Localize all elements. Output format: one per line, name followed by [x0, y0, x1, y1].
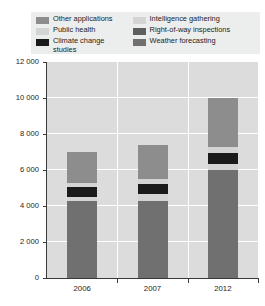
y-axis-tick-mark	[43, 242, 47, 243]
legend-item[interactable]: Right-of-way inspections	[133, 26, 256, 35]
x-axis-tick-mark	[188, 279, 189, 283]
legend-swatch-icon	[133, 28, 146, 35]
plot-area	[47, 62, 258, 278]
y-axis-tick-label: 8 000	[20, 130, 39, 138]
bar-segment[interactable]	[67, 201, 97, 278]
category-divider	[117, 62, 118, 278]
legend-item[interactable]: Public health	[36, 26, 133, 35]
legend-item-label: Right-of-way inspections	[150, 26, 231, 35]
bar-segment[interactable]	[67, 187, 97, 197]
chart-legend: Other applicationsPublic healthClimate c…	[31, 12, 260, 54]
bar-segment[interactable]	[138, 201, 168, 278]
y-axis-tick-mark	[43, 170, 47, 171]
legend-swatch-icon	[133, 39, 146, 46]
legend-item[interactable]: Intelligence gathering	[133, 15, 256, 24]
y-axis-tick-label: 10 000	[16, 94, 39, 102]
chart-top-caption	[0, 0, 265, 10]
y-axis-tick-mark	[43, 134, 47, 135]
bar-segment[interactable]	[208, 147, 238, 153]
x-axis-labels: 200620072012	[0, 284, 265, 296]
bar-segment[interactable]	[208, 98, 238, 147]
y-axis-tick-mark	[43, 62, 47, 63]
y-axis-labels: 12 00010 0008 0006 0004 0002 0000	[0, 58, 44, 283]
y-axis-tick-label: 6 000	[20, 166, 39, 174]
legend-item-label: Public health	[53, 26, 95, 35]
bar-segment[interactable]	[67, 197, 97, 201]
x-axis-tick-label: 2012	[214, 284, 231, 294]
plot-wrapper: 12 00010 0008 0006 0004 0002 0000	[0, 58, 265, 283]
legend-item[interactable]: Other applications	[36, 15, 133, 24]
x-axis-tick-label: 2007	[144, 284, 161, 294]
legend-swatch-icon	[36, 17, 49, 24]
legend-swatch-icon	[36, 39, 49, 46]
legend-column-left: Other applicationsPublic healthClimate c…	[36, 15, 133, 52]
x-axis-tick-mark	[117, 279, 118, 283]
y-axis-tick-mark	[43, 98, 47, 99]
legend-item[interactable]: Weather forecasting	[133, 37, 256, 46]
bar-segment[interactable]	[138, 179, 168, 184]
y-axis-tick-label: 0	[35, 274, 39, 282]
y-axis-tick-label: 4 000	[20, 202, 39, 210]
legend-item-label: Weather forecasting	[150, 37, 216, 46]
bar-segment[interactable]	[67, 183, 97, 188]
bar-segment[interactable]	[138, 194, 168, 200]
chart-root: Other applicationsPublic healthClimate c…	[0, 0, 265, 306]
legend-item-label: Climate change studies	[53, 37, 104, 54]
bar-segment[interactable]	[208, 170, 238, 278]
x-axis-line	[46, 278, 259, 279]
gridline	[47, 61, 258, 62]
legend-swatch-icon	[133, 17, 146, 24]
bar-segment[interactable]	[67, 152, 97, 183]
bar-segment[interactable]	[138, 145, 168, 179]
bar-segment[interactable]	[208, 164, 238, 170]
y-axis-tick-mark	[43, 206, 47, 207]
bar-column[interactable]	[138, 145, 168, 278]
category-divider	[188, 62, 189, 278]
bar-column[interactable]	[208, 98, 238, 278]
bar-segment[interactable]	[208, 153, 238, 164]
bar-segment[interactable]	[138, 184, 168, 194]
legend-swatch-icon	[36, 28, 49, 35]
y-axis-tick-mark	[43, 278, 47, 279]
legend-column-right: Intelligence gatheringRight-of-way inspe…	[133, 15, 256, 52]
legend-item-label: Other applications	[53, 15, 113, 24]
bar-column[interactable]	[67, 152, 97, 278]
y-axis-tick-label: 12 000	[16, 58, 39, 66]
legend-item-label: Intelligence gathering	[150, 15, 220, 24]
chart-source-note	[4, 296, 204, 306]
y-axis-tick-label: 2 000	[20, 238, 39, 246]
x-axis-tick-label: 2006	[73, 284, 90, 294]
legend-item[interactable]: Climate change studies	[36, 37, 133, 54]
x-axis-tick-mark	[258, 279, 259, 283]
